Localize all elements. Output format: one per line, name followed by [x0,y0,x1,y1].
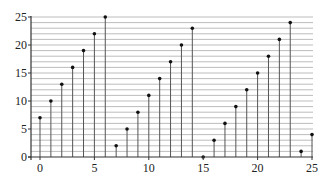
x-axis-ticks: 0510152025 [37,157,318,175]
stem-point [125,127,129,157]
y-tick-label: 0 [21,150,27,164]
stem-marker [49,99,53,103]
stem-chart: 0510152025 0510152025 [0,0,329,184]
stem-marker [299,150,303,154]
stem-marker [288,21,292,25]
x-tick-label: 20 [252,161,264,175]
stem-point [38,116,42,157]
stem-marker [180,43,184,47]
stem-point [288,21,292,157]
stem-point [267,54,271,157]
stem-point [191,26,195,157]
stem-point [212,138,216,157]
stem-point [158,77,162,157]
stem-marker [136,110,140,114]
y-tick-label: 10 [15,94,27,108]
stem-marker [125,127,129,131]
stem-marker [191,26,195,30]
x-tick-label: 15 [197,161,209,175]
stem-marker [147,94,151,98]
stem-point [245,88,249,157]
x-tick-label: 5 [91,161,97,175]
stem-point [103,15,107,157]
y-tick-label: 25 [15,10,27,24]
stem-marker [114,144,118,148]
stem-point [82,49,86,157]
y-tick-label: 15 [15,66,27,80]
stem-point [278,38,282,157]
stem-point [49,99,53,157]
stem-marker [60,82,64,86]
stem-marker [93,32,97,36]
stem-marker [256,71,260,75]
stem-marker [158,77,162,81]
stem-point [310,133,314,157]
stem-marker [212,138,216,142]
stem-marker [234,105,238,109]
stem-marker [169,60,173,64]
stem-marker [278,38,282,42]
stem-point [169,60,173,157]
x-tick-label: 10 [143,161,155,175]
stem-point [147,94,151,157]
x-tick-label: 0 [37,161,43,175]
stem-point [71,66,75,157]
stem-marker [223,122,227,126]
stem-marker [245,88,249,92]
y-tick-label: 20 [15,38,27,52]
data-stems [38,15,314,159]
y-tick-label: 5 [21,122,27,136]
stem-point [299,150,303,157]
stem-marker [71,66,75,70]
stem-point [114,144,118,157]
stem-marker [310,133,314,137]
x-tick-label: 25 [306,161,318,175]
y-axis-ticks: 0510152025 [15,10,31,164]
stem-marker [267,54,271,58]
stem-marker [103,15,107,19]
horizontal-gridlines [31,17,313,151]
stem-marker [82,49,86,53]
stem-marker [38,116,42,120]
